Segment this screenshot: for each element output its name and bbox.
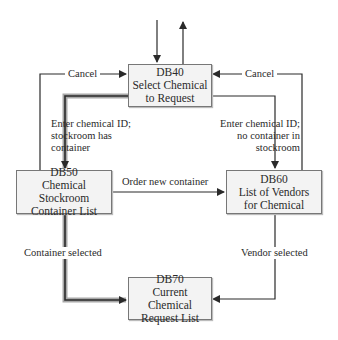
label-cancel-right: Cancel (242, 68, 277, 80)
label-vendor-selected: Vendor selected (240, 247, 309, 259)
node-db70: DB70 Current Chemical Request List (128, 277, 212, 320)
node-title: Request List (141, 312, 199, 325)
node-title: Chemical Stockroom (17, 179, 111, 205)
node-id: DB50 (50, 166, 77, 179)
node-title: Select Chemical (132, 79, 207, 92)
node-db60: DB60 List of Vendors for Chemical (226, 170, 322, 214)
node-title: Current Chemical (129, 286, 211, 312)
node-db40: DB40 Select Chemical to Request (128, 64, 212, 107)
node-title: Container List (31, 205, 97, 218)
node-db50: DB50 Chemical Stockroom Container List (16, 170, 112, 214)
label-stockroom-has-container: Enter chemical ID; stockroom has contain… (51, 118, 131, 154)
node-id: DB40 (156, 66, 183, 79)
node-title: List of Vendors (239, 186, 310, 199)
label-container-selected: Container selected (23, 247, 103, 259)
label-no-container: Enter chemical ID; no container in stock… (212, 118, 300, 154)
label-order-new-container: Order new container (122, 176, 208, 188)
label-cancel-left: Cancel (65, 68, 100, 80)
node-title: for Chemical (244, 199, 304, 212)
node-id: DB70 (156, 273, 183, 286)
node-title: to Request (146, 92, 195, 105)
node-id: DB60 (260, 173, 287, 186)
